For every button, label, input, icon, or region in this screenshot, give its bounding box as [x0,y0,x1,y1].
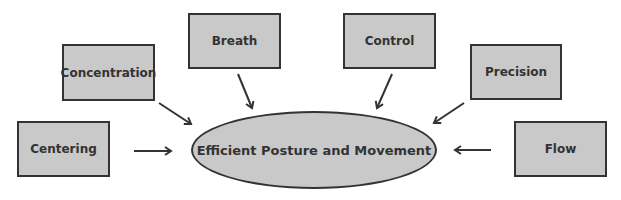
arrow-concentration [159,103,191,124]
node-flow: Flow [514,121,607,177]
node-label: Control [365,34,415,48]
node-label: Concentration [61,66,157,80]
node-control: Control [343,13,436,69]
arrow-breath [238,74,252,108]
node-label: Breath [212,34,258,48]
node-label: Precision [485,65,547,79]
arrow-control [377,74,392,108]
node-concentration: Concentration [62,44,155,101]
center-label: Efficient Posture and Movement [197,143,432,158]
node-precision: Precision [470,44,562,100]
node-label: Centering [30,142,97,156]
node-label: Flow [545,142,577,156]
node-centering: Centering [17,121,110,177]
center-node: Efficient Posture and Movement [191,111,437,189]
arrow-precision [434,103,464,123]
node-breath: Breath [188,13,281,69]
